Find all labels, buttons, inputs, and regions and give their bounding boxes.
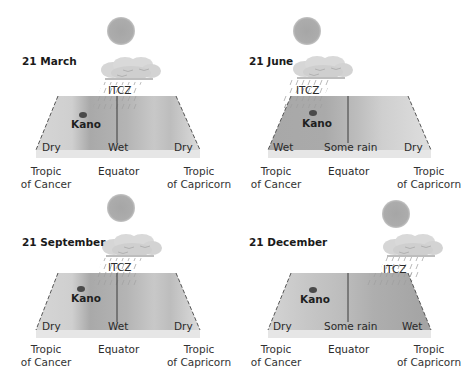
kano-label: Kano: [71, 292, 101, 304]
zone-label-center: Some rain: [324, 141, 377, 153]
zone-label-left: Dry: [42, 320, 61, 332]
itcz-label: ITCZ: [108, 84, 131, 96]
zone-label-left: Dry: [273, 320, 292, 332]
panel-december: [268, 200, 443, 338]
tropic-of-cancer-label: Tropicof Cancer: [250, 343, 302, 369]
zone-label-center: Wet: [108, 141, 128, 153]
equator-label: Equator: [328, 165, 369, 177]
zone-label-center: Wet: [108, 320, 128, 332]
itcz-label: ITCZ: [296, 84, 319, 96]
cloud-icon: [293, 56, 353, 79]
zone-label-center: Some rain: [324, 320, 377, 332]
zone-label-right: Dry: [174, 320, 193, 332]
tropic-of-cancer-label: Tropicof Cancer: [250, 165, 302, 191]
sun-icon: [293, 17, 321, 45]
sun-icon: [107, 194, 135, 222]
zone-label-left: Wet: [273, 141, 293, 153]
zone-label-right: Dry: [404, 141, 423, 153]
zone-label-left: Dry: [42, 141, 61, 153]
tropic-of-cancer-label: Tropicof Cancer: [20, 165, 72, 191]
kano-marker-icon: [309, 110, 317, 116]
cloud-icon: [102, 234, 162, 257]
cloud-icon: [383, 234, 443, 257]
sun-icon: [382, 200, 410, 228]
tropic-of-capricorn-label: Tropicof Capricorn: [163, 343, 235, 369]
panel-date-label: 21 September: [22, 236, 105, 248]
panel-date-label: 21 December: [249, 236, 327, 248]
itcz-label: ITCZ: [383, 263, 406, 275]
tropic-of-capricorn-label: Tropicof Capricorn: [163, 165, 235, 191]
panel-date-label: 21 March: [22, 55, 77, 67]
panel-june: [268, 17, 431, 158]
kano-label: Kano: [302, 117, 332, 129]
equator-label: Equator: [328, 343, 369, 355]
equator-label: Equator: [98, 343, 139, 355]
sun-icon: [107, 17, 135, 45]
cloud-icon: [101, 57, 161, 80]
itcz-label: ITCZ: [108, 261, 131, 273]
kano-label: Kano: [71, 118, 101, 130]
tropic-of-capricorn-label: Tropicof Capricorn: [393, 343, 465, 369]
zone-label-right: Dry: [174, 141, 193, 153]
tropic-of-cancer-label: Tropicof Cancer: [20, 343, 72, 369]
tropic-of-capricorn-label: Tropicof Capricorn: [393, 165, 465, 191]
equator-label: Equator: [98, 165, 139, 177]
panel-date-label: 21 June: [249, 55, 293, 67]
kano-label: Kano: [300, 293, 330, 305]
zone-label-right: Wet: [402, 320, 422, 332]
